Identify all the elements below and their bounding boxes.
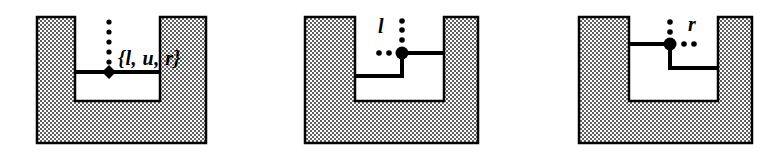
panel-right-graphic [0,0,773,157]
dotted-ray-up [667,19,673,35]
panel-right-label: r [688,14,696,34]
dotted-ray-right [681,41,697,47]
hatched-region [579,17,752,143]
figure-container: {l, u, r} [0,0,773,157]
panel-right: r [0,0,773,157]
vertex-marker-circle [664,38,677,51]
